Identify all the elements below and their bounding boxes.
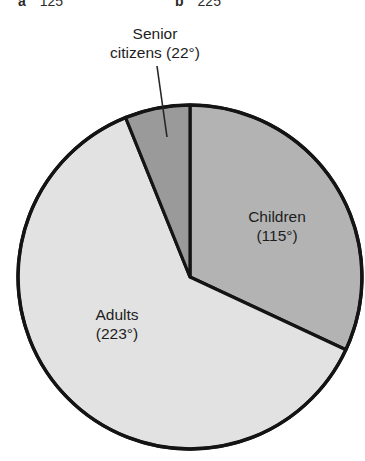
pie-label-adults: Adults (223°) [62, 305, 172, 343]
pie-label-adults-line1: Adults [62, 305, 172, 324]
pie-label-children-line2: (115°) [222, 226, 332, 245]
pie-label-adults-line2: (223°) [62, 324, 172, 343]
pie-label-children: Children (115°) [222, 207, 332, 245]
pie-label-children-line1: Children [222, 207, 332, 226]
pie-chart: Children (115°) Adults (223°) [0, 0, 365, 461]
